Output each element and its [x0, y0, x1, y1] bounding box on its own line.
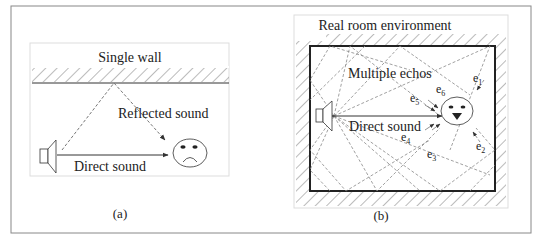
happy-face-icon	[441, 97, 473, 125]
panel-a: Single wall Reflected sound Direct sound…	[30, 43, 229, 221]
sad-face-icon	[173, 139, 207, 167]
room-title: Real room environment	[319, 18, 452, 33]
caption-b: (b)	[373, 208, 388, 223]
speaker-icon	[40, 140, 56, 173]
single-wall	[32, 66, 229, 83]
panel-b: Real room environment	[294, 15, 508, 223]
reflected-sound-label: Reflected sound	[118, 106, 209, 121]
direct-sound-label: Direct sound	[74, 159, 146, 174]
single-wall-label: Single wall	[98, 50, 161, 65]
figure: Single wall Reflected sound Direct sound…	[0, 0, 541, 243]
caption-a: (a)	[113, 206, 127, 221]
direct-sound-label: Direct sound	[349, 119, 421, 134]
multiple-echos-label: Multiple echos	[348, 66, 432, 81]
